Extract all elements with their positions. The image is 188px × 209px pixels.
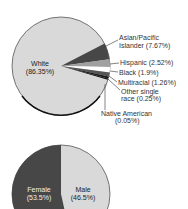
leader-hispanic [110,63,119,64]
label-other-l2: race (0.25%) [121,95,161,103]
leader-asian [104,40,118,47]
leader-black [110,71,118,72]
label-female-name: Female [27,186,50,193]
label-female-pct: (53.5%) [27,194,52,202]
label-white-pct: (86.35%) [26,68,54,76]
label-asian-l2: Islander (7.67%) [119,42,170,50]
ethnicity-pie: White (86.35%) Asian/Pacific Islander (7… [12,17,176,125]
label-male-name: Male [75,186,90,193]
label-black: Black (1.9%) [119,69,159,77]
gender-pie: Female (53.5%) Male (46.5%) [12,145,110,209]
label-asian-l1: Asian/Pacific [119,34,160,41]
label-native-l2: (0.05%) [115,117,140,125]
label-multiracial: Multiracial (1.26%) [118,79,176,87]
charts-canvas: White (86.35%) Asian/Pacific Islander (7… [0,0,188,209]
label-white-name: White [31,60,49,67]
label-hispanic: Hispanic (2.52%) [120,59,173,67]
label-native-l1: Native American [101,110,152,117]
label-male-pct: (46.5%) [71,194,96,202]
